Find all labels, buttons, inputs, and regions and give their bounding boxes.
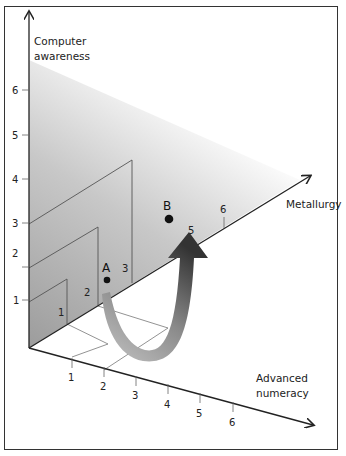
metallurgy-tick-1: 1 <box>58 307 64 318</box>
point-a-label: A <box>102 261 111 275</box>
vertical-tick-3: 3 <box>12 218 18 229</box>
vertical-tick-4: 4 <box>12 174 18 185</box>
numeracy-tick-2: 2 <box>100 381 106 392</box>
vertical-tick-5: 5 <box>12 130 18 141</box>
vertical-tick-2: 2 <box>12 248 18 259</box>
metallurgy-tick-2: 2 <box>84 287 90 298</box>
vertical-axis-label-line1: Computer <box>34 35 87 47</box>
numeracy-tick-6: 6 <box>229 417 235 428</box>
point-b-label: B <box>163 199 171 213</box>
metallurgy-tick-6: 6 <box>220 204 226 215</box>
vertical-axis-label-line2: awareness <box>34 50 90 62</box>
numeracy-tick-5: 5 <box>196 408 202 419</box>
vertical-tick-1: 1 <box>13 295 19 306</box>
metallurgy-tick-3: 3 <box>122 263 128 274</box>
skills-diagram: 1 2 3 4 5 6 Computer awareness 1 2 3 5 6… <box>0 0 346 456</box>
numeracy-tick-3: 3 <box>132 390 138 401</box>
point-a <box>104 277 111 284</box>
point-b <box>165 215 174 224</box>
vertical-tick-6: 6 <box>12 85 18 96</box>
numeracy-axis-label-line1: Advanced <box>256 372 308 384</box>
metallurgy-axis-label: Metallurgy <box>286 198 342 210</box>
numeracy-tick-1: 1 <box>68 372 74 383</box>
numeracy-tick-4: 4 <box>164 399 170 410</box>
numeracy-axis-label-line2: numeracy <box>256 387 309 399</box>
